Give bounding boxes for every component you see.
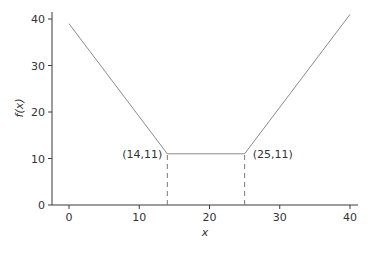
x-ticks: 010203040 [66, 205, 358, 224]
y-ticks: 010203040 [31, 13, 52, 212]
axes [52, 12, 358, 205]
point-annotation: (14,11) [122, 148, 162, 161]
y-tick-label: 20 [31, 106, 45, 119]
y-tick-label: 40 [31, 13, 45, 26]
y-axis-title: f(x) [13, 99, 26, 118]
y-tick-label: 30 [31, 60, 45, 73]
chart-canvas: 010203040 010203040 (14,11)(25,11) x f(x… [0, 0, 375, 253]
point-annotation: (25,11) [253, 148, 293, 161]
x-axis-title: x [201, 226, 209, 239]
x-tick-label: 0 [66, 211, 73, 224]
series-line [69, 14, 350, 153]
y-tick-label: 10 [31, 153, 45, 166]
point-annotations: (14,11)(25,11) [122, 148, 292, 161]
y-tick-label: 0 [38, 199, 45, 212]
x-tick-label: 20 [203, 211, 217, 224]
x-tick-label: 40 [343, 211, 357, 224]
x-tick-label: 10 [132, 211, 146, 224]
guide-lines [167, 154, 244, 205]
x-tick-label: 30 [273, 211, 287, 224]
